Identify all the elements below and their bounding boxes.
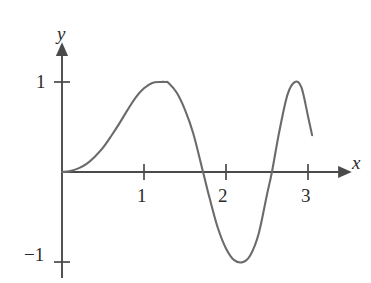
y-axis-label: y (57, 24, 65, 43)
y-tick-label-neg1: −1 (24, 245, 44, 264)
plot-canvas (0, 0, 371, 283)
x-tick-label-3: 3 (301, 186, 311, 205)
y-tick-label-1: 1 (36, 72, 46, 91)
graph-figure: 1 2 3 1 −1 x y (0, 0, 371, 283)
x-tick-label-1: 1 (137, 186, 147, 205)
x-axis-label: x (352, 153, 360, 172)
x-tick-label-2: 2 (218, 186, 228, 205)
